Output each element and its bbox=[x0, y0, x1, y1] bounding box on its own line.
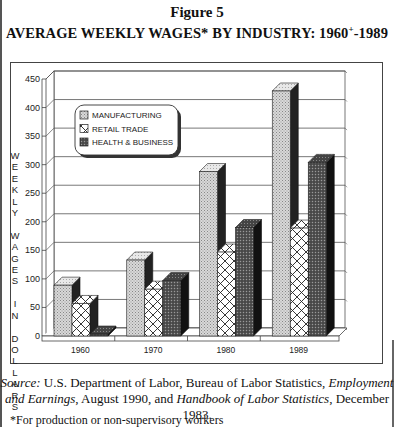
y-tick-label: 0 bbox=[35, 331, 40, 341]
y-tick-label: 400 bbox=[25, 103, 40, 113]
y-tick-label: 250 bbox=[25, 188, 40, 198]
footnote: *For production or non-supervisory worke… bbox=[10, 413, 223, 427]
bar-health-business-1980 bbox=[236, 219, 262, 336]
legend-item-label: RETAIL TRADE bbox=[92, 125, 148, 134]
y-tick-label: 150 bbox=[25, 245, 40, 255]
bar-health-business-1970 bbox=[163, 273, 189, 336]
legend-item-label: MANUFACTURING bbox=[92, 111, 162, 120]
x-tick-label: 1970 bbox=[144, 345, 163, 355]
legend-item-label: HEALTH & BUSINESS bbox=[92, 138, 173, 147]
y-tick-label: 300 bbox=[25, 160, 40, 170]
legend-swatch bbox=[80, 138, 88, 146]
legend-swatch bbox=[80, 125, 88, 133]
y-tick-label: 450 bbox=[25, 74, 40, 84]
x-tick-label: 1989 bbox=[289, 345, 308, 355]
y-tick-label: 200 bbox=[25, 217, 40, 227]
chart-legend: MANUFACTURINGRETAIL TRADEHEALTH & BUSINE… bbox=[75, 105, 181, 158]
bar-health-business-1989 bbox=[308, 154, 334, 336]
x-tick-label: 1980 bbox=[216, 345, 235, 355]
y-tick-label: 50 bbox=[30, 302, 40, 312]
x-tick-label: 1960 bbox=[71, 345, 90, 355]
bar-chart: 050100150200250300350400450 196019701980… bbox=[0, 0, 394, 427]
y-tick-label: 350 bbox=[25, 131, 40, 141]
y-tick-label: 100 bbox=[25, 274, 40, 284]
legend-swatch bbox=[80, 111, 88, 119]
